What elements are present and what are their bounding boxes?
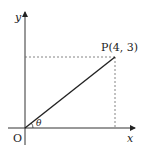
coordinate-diagram: y x O P(4, 3) θ [0, 0, 143, 151]
x-axis-label: x [127, 132, 134, 145]
origin-label: O [13, 132, 22, 145]
angle-label: θ [36, 118, 42, 128]
y-axis-label: y [14, 11, 22, 24]
point-label: P(4, 3) [101, 41, 138, 54]
angle-arc [31, 123, 33, 128]
